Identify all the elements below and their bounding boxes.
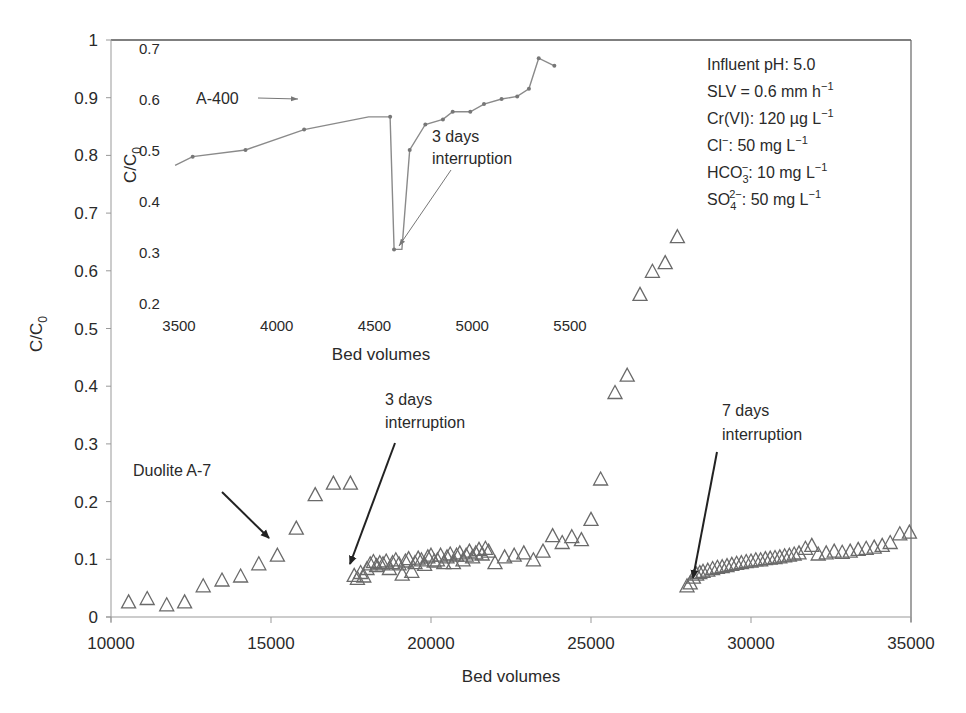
svg-text:Duolite A-7: Duolite A-7 (133, 462, 211, 479)
inset-data-point (552, 64, 556, 68)
svg-text:7 days: 7 days (722, 402, 769, 419)
y-tick-label: 0.7 (74, 204, 98, 223)
triangle-marker-icon (645, 264, 659, 277)
triangle-marker-icon (343, 476, 357, 489)
condition-chloride: Cl−: 50 mg L−1 (707, 134, 808, 154)
triangle-marker-icon (160, 598, 174, 611)
inset-data-point (527, 87, 531, 91)
annotation-a400: A-400 (196, 90, 298, 107)
inset-data-point (243, 148, 247, 152)
inset-y-axis-title: C/C0 (121, 147, 144, 183)
triangle-marker-icon (670, 230, 684, 243)
y-tick-label: 0.4 (74, 377, 98, 396)
inset-data-point (191, 155, 195, 159)
triangle-marker-icon (608, 386, 622, 399)
inset-data-point (537, 56, 541, 60)
arrow-icon (258, 98, 298, 99)
y-tick-label: 0.6 (74, 262, 98, 281)
triangle-marker-icon (546, 529, 560, 542)
main-x-ticks: 100001500020000250003000035000 (87, 617, 934, 653)
inset-data-point (515, 94, 519, 98)
inset-y-tick-label: 0.2 (139, 295, 160, 312)
inset-y-tick-label: 0.6 (139, 91, 160, 108)
condition-influent-ph: Influent pH: 5.0 (707, 56, 816, 73)
main-y-ticks: 00.10.20.30.40.50.60.70.80.91 (74, 31, 111, 627)
condition-crvi: Cr(VI): 120 µg L−1 (707, 107, 834, 127)
inset-x-tick-label: 5000 (456, 317, 489, 334)
svg-text:interruption: interruption (432, 150, 512, 167)
triangle-marker-icon (178, 595, 192, 608)
inset-y-tick-label: 0.7 (139, 40, 160, 57)
triangle-marker-icon (289, 521, 303, 534)
inset-data-point (482, 102, 486, 106)
inset-data-point (392, 247, 396, 251)
inset-data-point (408, 148, 412, 152)
x-tick-label: 10000 (87, 634, 134, 653)
condition-sulfate: SO42−: 50 mg L−1 (707, 188, 821, 212)
triangle-marker-icon (122, 595, 136, 608)
y-tick-label: 1 (89, 31, 98, 50)
svg-text:interruption: interruption (385, 414, 465, 431)
breakthrough-chart: 00.10.20.30.40.50.60.70.80.91 1000015000… (0, 0, 966, 713)
duolite-a7-markers (122, 230, 917, 611)
annotation-duolite-a7: Duolite A-7 (133, 462, 269, 538)
annotation-inset-3days: 3 days interruption (399, 128, 512, 246)
main-x-axis-title: Bed volumes (462, 667, 560, 686)
svg-text:A-400: A-400 (196, 90, 239, 107)
arrow-icon (222, 492, 269, 538)
svg-text:C/C0: C/C0 (121, 147, 144, 183)
main-y-axis-title: C/C0 (27, 316, 50, 352)
inset-y-tick-label: 0.4 (139, 193, 160, 210)
experimental-conditions: Influent pH: 5.0 SLV = 0.6 mm h−1 Cr(VI)… (707, 56, 834, 212)
annotation-main-3days: 3 days interruption (350, 391, 465, 564)
triangle-marker-icon (658, 256, 672, 269)
inset-data-point (441, 117, 445, 121)
inset-x-tick-label: 5500 (553, 317, 586, 334)
x-tick-label: 15000 (247, 634, 294, 653)
condition-bicarbonate: HCO3−: 10 mg L−1 (707, 161, 827, 185)
arrow-icon (693, 452, 717, 578)
x-tick-label: 35000 (887, 634, 934, 653)
triangle-marker-icon (326, 476, 340, 489)
svg-text:3 days: 3 days (432, 128, 479, 145)
inset-x-tick-label: 4000 (260, 317, 293, 334)
y-tick-label: 0 (89, 608, 98, 627)
triangle-marker-icon (196, 579, 210, 592)
inset-data-point (302, 128, 306, 132)
inset-data-point (500, 97, 504, 101)
y-tick-label: 0.8 (74, 146, 98, 165)
triangle-marker-icon (215, 573, 229, 586)
triangle-marker-icon (883, 536, 897, 549)
inset-x-ticks: 35004000450050005500 (162, 317, 586, 334)
svg-text:C/C0: C/C0 (27, 316, 50, 352)
inset-data-point (388, 115, 392, 119)
triangle-marker-icon (140, 592, 154, 605)
inset-x-tick-label: 3500 (162, 317, 195, 334)
inset-data-point (451, 110, 455, 114)
triangle-marker-icon (584, 512, 598, 525)
triangle-marker-icon (252, 557, 266, 570)
inset-data-point (423, 123, 427, 127)
triangle-marker-icon (270, 548, 284, 561)
y-tick-label: 0.5 (74, 320, 98, 339)
x-tick-label: 20000 (407, 634, 454, 653)
inset-y-ticks: 0.20.30.40.50.60.7 (139, 40, 160, 312)
inset-x-axis-title: Bed volumes (332, 345, 430, 364)
y-tick-label: 0.2 (74, 493, 98, 512)
svg-text:3 days: 3 days (385, 391, 432, 408)
inset-plot-area: 0.20.30.40.50.60.7 35004000450050005500 … (121, 40, 587, 364)
y-tick-label: 0.9 (74, 89, 98, 108)
triangle-marker-icon (536, 544, 550, 557)
triangle-marker-icon (633, 287, 647, 300)
triangle-marker-icon (234, 569, 248, 582)
inset-data-point (468, 110, 472, 114)
triangle-marker-icon (594, 472, 608, 485)
condition-slv: SLV = 0.6 mm h−1 (707, 80, 834, 100)
y-tick-label: 0.3 (74, 435, 98, 454)
inset-y-tick-label: 0.3 (139, 244, 160, 261)
x-tick-label: 25000 (567, 634, 614, 653)
y-tick-label: 0.1 (74, 550, 98, 569)
triangle-marker-icon (308, 488, 322, 501)
triangle-marker-icon (620, 368, 634, 381)
arrow-icon (350, 443, 395, 564)
